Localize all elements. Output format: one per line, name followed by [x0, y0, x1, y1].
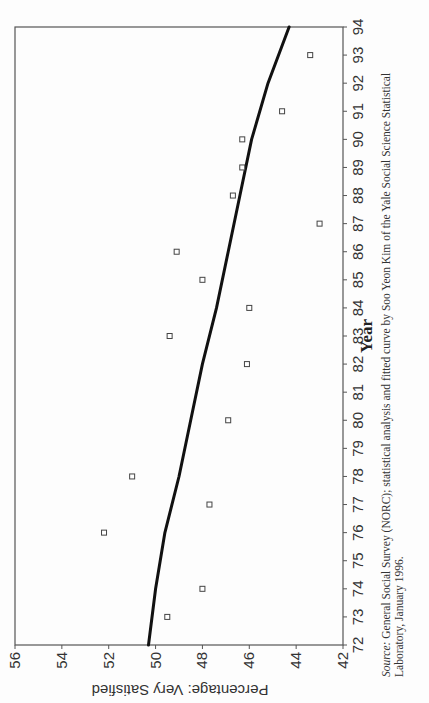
source-text: General Social Survey (NORC); statistica… [380, 73, 405, 677]
data-point-marker [240, 137, 245, 142]
plot-frame [15, 27, 343, 645]
data-point-marker [207, 502, 212, 507]
x-tick-label: 87 [349, 215, 366, 232]
y-tick-label: 50 [147, 652, 164, 669]
source-caption: Source: General Social Survey (NORC); st… [380, 17, 406, 677]
x-tick-label: 85 [349, 271, 366, 288]
data-point-marker [308, 53, 313, 58]
y-tick-label: 46 [240, 652, 257, 669]
x-axis-title: Year [357, 319, 376, 353]
data-point-marker [247, 305, 252, 310]
y-tick-label: 56 [6, 652, 23, 669]
y-axis-ticks: 4244464850525456 [6, 645, 351, 669]
scatter-chart: 4244464850525456 72737475767778798081828… [0, 0, 429, 703]
x-tick-label: 79 [349, 440, 366, 457]
x-tick-label: 82 [349, 356, 366, 373]
x-tick-label: 86 [349, 243, 366, 260]
data-point-marker [200, 586, 205, 591]
y-axis-title: Percentage: Very Satisfied [92, 682, 269, 699]
x-tick-label: 89 [349, 159, 366, 176]
y-tick-label: 44 [287, 652, 304, 669]
x-tick-label: 74 [349, 580, 366, 597]
data-point-marker [167, 334, 172, 339]
x-tick-label: 88 [349, 187, 366, 204]
data-point-marker [280, 109, 285, 114]
data-point-marker [200, 277, 205, 282]
data-point-marker [230, 193, 235, 198]
data-point-marker [130, 474, 135, 479]
x-tick-label: 77 [349, 496, 366, 513]
y-tick-label: 54 [53, 652, 70, 669]
x-tick-label: 81 [349, 384, 366, 401]
data-point-marker [165, 614, 170, 619]
x-tick-label: 76 [349, 524, 366, 541]
x-tick-label: 78 [349, 468, 366, 485]
y-tick-label: 48 [193, 652, 210, 669]
data-points [102, 53, 323, 620]
data-point-marker [102, 530, 107, 535]
data-point-marker [244, 362, 249, 367]
x-tick-label: 73 [349, 609, 366, 626]
data-point-marker [317, 221, 322, 226]
x-tick-label: 91 [349, 103, 366, 120]
x-tick-label: 72 [349, 637, 366, 654]
source-label: Source: [380, 642, 392, 677]
x-tick-label: 93 [349, 47, 366, 64]
data-point-marker [240, 165, 245, 170]
y-tick-label: 52 [100, 652, 117, 669]
x-tick-label: 94 [349, 19, 366, 36]
x-tick-label: 80 [349, 412, 366, 429]
data-point-marker [174, 249, 179, 254]
plot-border [15, 27, 343, 645]
x-tick-label: 90 [349, 131, 366, 148]
x-tick-label: 84 [349, 300, 366, 317]
rotated-page: 4244464850525456 72737475767778798081828… [0, 0, 429, 703]
y-tick-label: 42 [334, 652, 351, 669]
x-tick-label: 92 [349, 75, 366, 92]
x-tick-label: 75 [349, 552, 366, 569]
data-point-marker [226, 418, 231, 423]
